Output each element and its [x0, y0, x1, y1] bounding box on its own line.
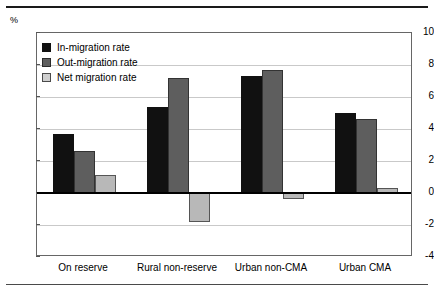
- y-axis-unit-label: %: [10, 15, 18, 25]
- x-axis-category-label: Urban non-CMA: [224, 262, 318, 273]
- y-axis-tick-mark: [36, 64, 40, 65]
- bottom-rule: [6, 284, 428, 285]
- y-axis-tick-mark: [36, 224, 40, 225]
- legend-swatch-icon: [42, 43, 51, 52]
- y-axis-tick-label: 4: [408, 123, 434, 133]
- bar: [335, 113, 356, 193]
- y-axis-tick-mark: [36, 256, 40, 257]
- y-axis-tick-mark: [36, 96, 40, 97]
- legend-label: In-migration rate: [57, 42, 130, 53]
- legend-item: In-migration rate: [42, 40, 138, 55]
- bar-group: [319, 33, 413, 255]
- bar: [356, 119, 377, 193]
- bar: [74, 151, 95, 193]
- bar-group: [131, 33, 225, 255]
- legend-item: Net migration rate: [42, 70, 138, 85]
- bar: [168, 78, 189, 193]
- chart-legend: In-migration rateOut-migration rateNet m…: [42, 40, 138, 85]
- bar: [147, 107, 168, 193]
- y-axis-tick-mark: [36, 32, 40, 33]
- legend-label: Out-migration rate: [57, 57, 138, 68]
- bar: [53, 134, 74, 193]
- bar: [262, 70, 283, 193]
- y-axis-tick-mark: [36, 128, 40, 129]
- y-axis-tick-label: 10: [408, 27, 434, 37]
- top-rule: [6, 6, 428, 8]
- zero-baseline: [37, 192, 411, 194]
- y-axis-tick-label: 6: [408, 91, 434, 101]
- migration-rate-bar-chart: % In-migration rateOut-migration rateNet…: [0, 0, 434, 295]
- x-axis-category-label: Rural non-reserve: [130, 262, 224, 273]
- legend-item: Out-migration rate: [42, 55, 138, 70]
- x-axis-category-label: Urban CMA: [318, 262, 412, 273]
- legend-label: Net migration rate: [57, 72, 136, 83]
- bar: [189, 193, 210, 222]
- bar: [95, 175, 116, 193]
- y-axis-tick-mark: [36, 160, 40, 161]
- y-axis-tick-label: -4: [408, 251, 434, 261]
- bar: [241, 76, 262, 193]
- y-axis-tick-label: 2: [408, 155, 434, 165]
- y-axis-tick-label: 8: [408, 59, 434, 69]
- bar-group: [225, 33, 319, 255]
- x-axis-category-label: On reserve: [36, 262, 130, 273]
- legend-swatch-icon: [42, 58, 51, 67]
- y-axis-tick-label: 0: [408, 187, 434, 197]
- legend-swatch-icon: [42, 73, 51, 82]
- y-axis-tick-label: -2: [408, 219, 434, 229]
